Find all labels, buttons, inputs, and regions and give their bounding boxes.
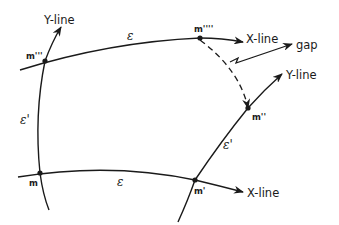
gap-pointer-arrow	[230, 44, 292, 63]
top-x-line-arrow	[200, 38, 243, 42]
gap-dashed-curve	[200, 40, 248, 108]
right-y-line-arrow	[248, 74, 282, 108]
label-epsilon-bottom: ε	[117, 175, 123, 189]
label-m3: m'''	[26, 51, 43, 61]
node-m2	[245, 105, 250, 110]
label-y-line-top-left: Y-line	[43, 13, 75, 27]
node-m3	[42, 58, 47, 63]
node-m	[37, 170, 42, 175]
label-epsilon-prime-left: ε'	[20, 113, 30, 127]
label-m2: m''	[252, 112, 266, 122]
label-gap: gap	[296, 38, 318, 52]
bottom-epsilon-curve	[18, 170, 195, 180]
right-epsilon-prime-curve	[178, 108, 248, 222]
label-x-line-top: X-line	[246, 32, 278, 46]
label-x-line-bottom: X-line	[247, 186, 279, 200]
label-y-line-right: Y-line	[285, 68, 317, 82]
label-epsilon-top: ε	[127, 29, 133, 43]
label-m1: m'	[194, 186, 205, 196]
mesh-diagram: Y-line X-line gap Y-line X-line ε ε ε' ε…	[0, 0, 339, 225]
left-y-line-arrow	[45, 27, 61, 61]
left-epsilon-prime-curve	[38, 61, 49, 210]
label-m: m	[29, 178, 38, 188]
node-m1	[192, 177, 197, 182]
label-epsilon-prime-right: ε'	[223, 138, 233, 152]
node-m4	[197, 35, 202, 40]
label-m4: m''''	[194, 24, 213, 34]
